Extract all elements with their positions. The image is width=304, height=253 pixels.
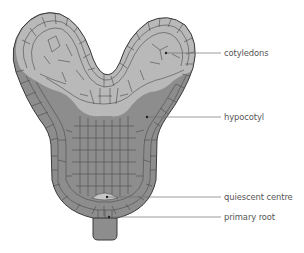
label-quiescent-centre: quiescent centre [224, 192, 293, 202]
label-cotyledons: cotyledons [224, 48, 269, 58]
label-primary-root: primary root [224, 212, 275, 222]
label-hypocotyl: hypocotyl [224, 112, 264, 122]
